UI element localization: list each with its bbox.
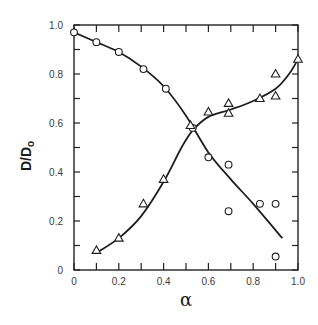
chart: 00.20.40.60.81.000.20.40.60.81.0 D/Do α <box>0 0 318 325</box>
triangle-marker <box>271 92 280 100</box>
y-tick-label: 0.2 <box>49 216 63 227</box>
y-axis-label: D/Do <box>18 141 36 171</box>
triangle-marker <box>92 246 101 254</box>
circle-marker <box>205 154 212 161</box>
triangles-fit-curve <box>96 59 298 253</box>
y-tick-label: 0.4 <box>49 167 63 178</box>
circle-marker <box>225 161 232 168</box>
plot-frame <box>74 25 298 270</box>
plot-axes: 00.20.40.60.81.000.20.40.60.81.0 <box>49 20 305 287</box>
triangle-marker <box>139 199 148 207</box>
circle-marker <box>71 29 78 36</box>
x-tick-label: 0.2 <box>112 276 126 287</box>
triangle-marker <box>294 55 303 63</box>
circle-marker <box>272 200 279 207</box>
data-markers <box>71 29 303 260</box>
fit-curves <box>74 32 298 253</box>
circle-marker <box>272 253 279 260</box>
circle-marker <box>115 49 122 56</box>
x-tick-label: 1.0 <box>291 276 305 287</box>
y-tick-label: 0.8 <box>49 69 63 80</box>
x-tick-label: 0.4 <box>157 276 171 287</box>
axis-ticks <box>74 25 298 270</box>
triangle-marker <box>204 107 213 115</box>
y-tick-label: 0 <box>57 265 63 276</box>
circle-marker <box>257 200 264 207</box>
x-axis-label: α <box>180 289 192 310</box>
y-tick-label: 1.0 <box>49 20 63 31</box>
circle-marker <box>140 66 147 73</box>
circle-marker <box>93 39 100 46</box>
circles-fit-curve <box>74 32 282 238</box>
y-tick-label: 0.6 <box>49 118 63 129</box>
triangle-marker <box>271 70 280 78</box>
axis-tick-labels: 00.20.40.60.81.000.20.40.60.81.0 <box>49 20 305 287</box>
x-tick-label: 0.6 <box>201 276 215 287</box>
x-tick-label: 0 <box>71 276 77 287</box>
circle-marker <box>225 208 232 215</box>
triangle-marker <box>256 94 265 102</box>
x-tick-label: 0.8 <box>246 276 260 287</box>
circle-marker <box>162 85 169 92</box>
triangle-marker <box>224 99 233 107</box>
